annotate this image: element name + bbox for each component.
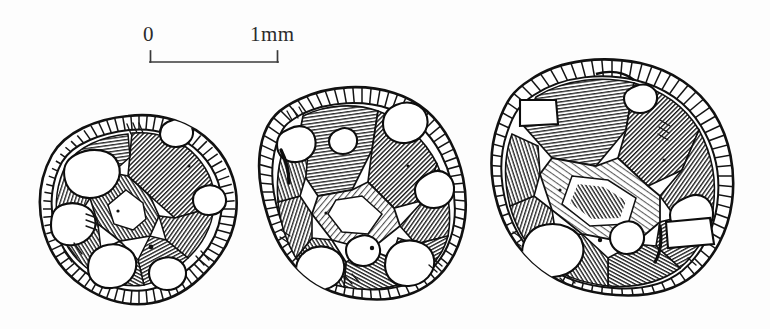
enamel-lake xyxy=(193,185,226,215)
tooth-row-illustration xyxy=(0,0,770,329)
enamel-lake xyxy=(88,244,136,288)
enamel-lake xyxy=(624,85,657,113)
scale-bar-label-one-mm: 1mm xyxy=(250,24,295,45)
enamel-lake xyxy=(329,128,357,154)
enamel-lake xyxy=(520,100,558,126)
enamel-lake xyxy=(51,203,96,245)
enamel-lake xyxy=(666,218,714,248)
enamel-lake xyxy=(385,241,434,287)
enamel-lake xyxy=(346,235,380,266)
enamel-lake xyxy=(64,150,120,198)
enamel-lake xyxy=(383,103,428,143)
enamel-lake xyxy=(610,221,644,254)
scale-bar-label-zero: 0 xyxy=(143,24,154,45)
enamel-lake xyxy=(149,257,186,290)
tooth-right-facet-8 xyxy=(506,134,540,206)
figure-root: 0 1mm xyxy=(0,0,770,329)
